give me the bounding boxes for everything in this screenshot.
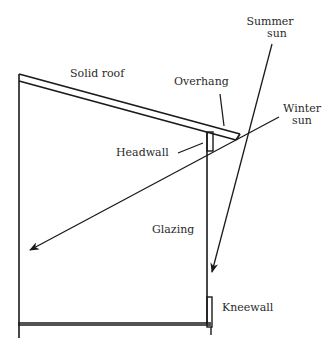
glazing-label: Glazing bbox=[152, 224, 194, 236]
overhang-label: Overhang bbox=[174, 76, 229, 88]
summer-sun-label-line2: sun bbox=[240, 28, 300, 40]
winter-sun-label-line2: sun bbox=[280, 115, 324, 127]
winter-sun-label: Winter sun bbox=[280, 103, 324, 127]
headwall bbox=[207, 132, 213, 151]
sunspace-diagram bbox=[0, 0, 335, 360]
kneewall-label: Kneewall bbox=[222, 302, 273, 314]
solid-roof-label: Solid roof bbox=[70, 68, 124, 80]
headwall-label: Headwall bbox=[116, 147, 169, 159]
floor bbox=[18, 323, 211, 325]
headwall-leader bbox=[178, 143, 203, 153]
summer-sun-label: Summer sun bbox=[240, 16, 300, 40]
overhang-leader bbox=[220, 94, 224, 126]
